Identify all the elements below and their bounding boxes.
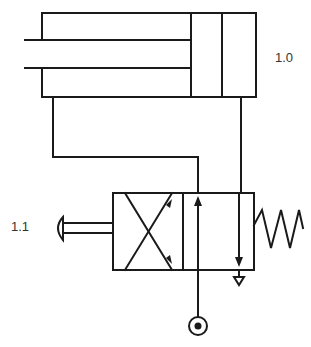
exhaust-triangle-icon [234,277,244,285]
label-cylinder: 1.0 [275,50,293,65]
arrowhead-up-icon [194,196,202,206]
pipe-valve-to-cylinder [53,97,198,193]
arrowhead-down-icon [235,257,243,267]
pushbutton-icon [58,217,63,240]
valve-1-1 [58,193,303,317]
pressure-source-icon [189,317,207,335]
pneumatic-circuit-diagram: 1.0 1.1 [0,0,311,347]
cylinder-1-0 [25,13,256,97]
label-valve: 1.1 [11,219,29,234]
spring-return-icon [254,210,303,248]
